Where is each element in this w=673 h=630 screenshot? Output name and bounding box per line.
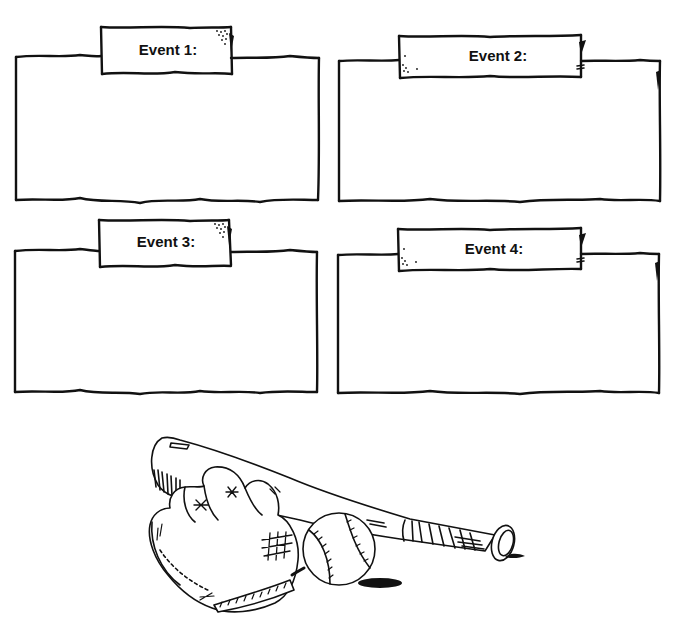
event-2-writing-area[interactable] (343, 81, 655, 197)
event-1-label: Event 1: (118, 41, 218, 59)
event-1-writing-area[interactable] (20, 78, 314, 196)
event-4-label: Event 4: (434, 240, 554, 258)
event-4-writing-area[interactable] (342, 274, 655, 389)
worksheet-page: Event 1: Event 2: Event 3: Event 4: (0, 0, 673, 630)
event-3-writing-area[interactable] (19, 270, 313, 388)
event-2-label: Event 2: (438, 47, 558, 65)
baseball-illustration (149, 437, 525, 612)
event-3-label: Event 3: (116, 233, 216, 251)
stipple-corner-icon (401, 248, 417, 266)
stipple-corner-icon (402, 55, 418, 73)
